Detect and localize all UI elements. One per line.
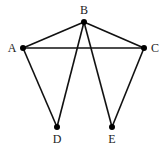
edges-group [23, 22, 144, 127]
node-label-e: E [108, 132, 115, 146]
node-d [54, 124, 60, 130]
node-label-a: A [8, 41, 17, 55]
edge-a-b [23, 22, 84, 48]
edge-a-d [23, 48, 57, 127]
edge-c-e [112, 48, 144, 127]
node-label-c: C [151, 41, 159, 55]
edge-b-e [84, 22, 112, 127]
nodes-group [20, 19, 147, 130]
node-c [141, 45, 147, 51]
edge-b-d [57, 22, 84, 127]
edge-b-c [84, 22, 144, 48]
node-label-b: B [80, 3, 88, 17]
node-b [81, 19, 87, 25]
graph-diagram: ABCDE [0, 0, 164, 154]
node-label-d: D [53, 132, 62, 146]
graph-canvas: ABCDE [0, 0, 164, 154]
node-a [20, 45, 26, 51]
node-e [109, 124, 115, 130]
